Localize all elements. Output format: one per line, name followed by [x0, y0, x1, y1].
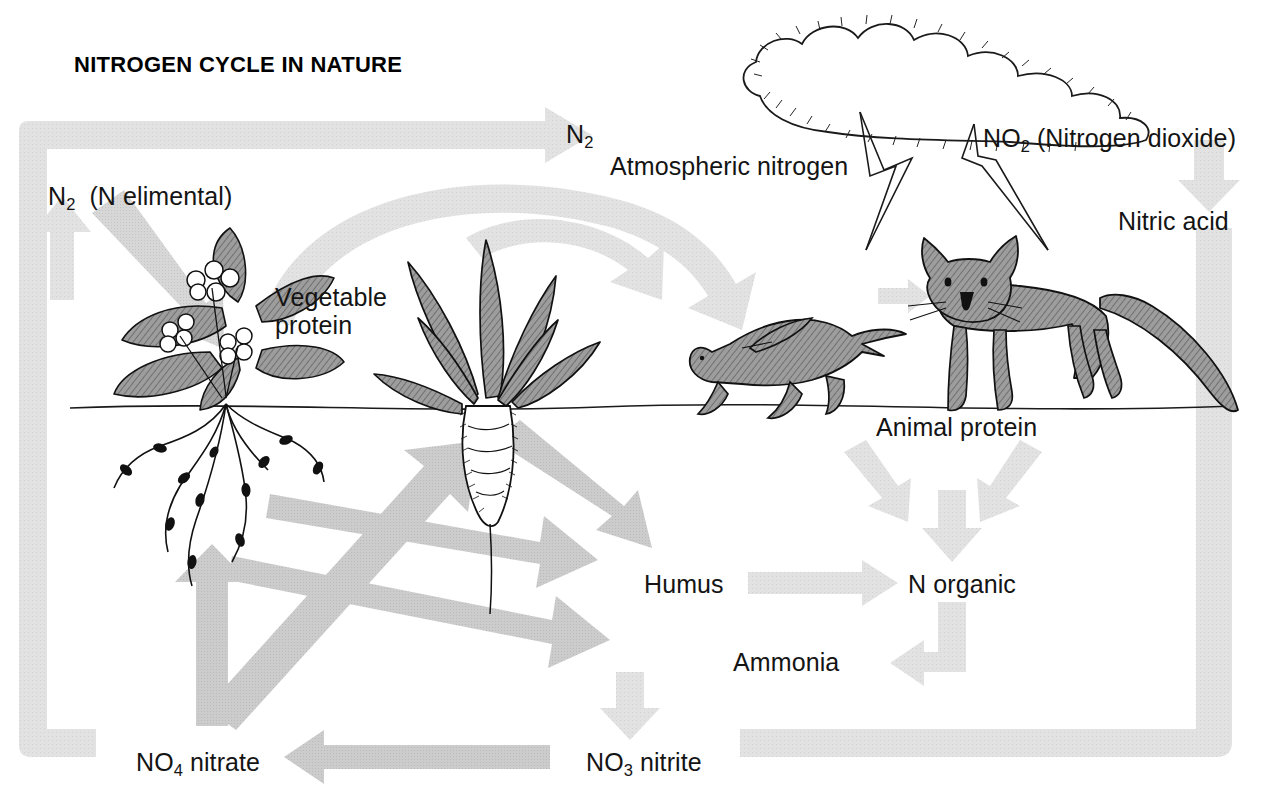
no4-name: nitrate	[190, 748, 260, 776]
flow-n2-elemental-to-atmosphere	[19, 107, 592, 185]
no3-subscript: 3	[624, 761, 633, 779]
flow-soil-to-n2-elemental	[19, 185, 96, 757]
label-no3-nitrite: NO3 nitrite	[586, 748, 702, 779]
flow-ammonia-to-nitrite	[600, 672, 660, 740]
label-vegetable-protein: Vegetable protein	[275, 283, 387, 339]
label-humus: Humus	[644, 570, 724, 598]
n2-subscript: 2	[584, 133, 593, 151]
flow-nitrite-to-nitrate	[284, 730, 550, 784]
label-no4-nitrate: NO4 nitrate	[136, 748, 260, 779]
flow-n-organic-to-ammonia	[890, 602, 966, 686]
no3-name: nitrite	[640, 748, 702, 776]
flow-animals-to-n-organic	[844, 440, 1042, 562]
label-n2-atmospheric: N2	[566, 120, 593, 151]
label-n-organic: N organic	[908, 570, 1016, 598]
flow-prey-to-predator	[878, 279, 930, 313]
label-nitric-acid: Nitric acid	[1118, 207, 1229, 235]
label-ammonia: Ammonia	[733, 648, 839, 676]
label-n2-elemental: N2 (N elimental)	[48, 182, 232, 213]
vegetable-protein-line-2: protein	[275, 311, 387, 339]
label-atmospheric-nitrogen: Atmospheric nitrogen	[610, 152, 848, 180]
no3-symbol: NO	[586, 748, 624, 776]
fox	[908, 236, 1238, 411]
nitrogen-cycle-diagram: NITROGEN CYCLE IN NATURE	[0, 0, 1271, 803]
no2-subscript: 2	[1021, 137, 1030, 155]
hare	[690, 318, 906, 418]
no2-name: (Nitrogen dioxide)	[1037, 124, 1236, 152]
diagram-artwork	[0, 0, 1271, 803]
n2-elemental-symbol: N	[48, 182, 66, 210]
n2-symbol: N	[566, 120, 584, 148]
n2-elemental-subscript: 2	[66, 195, 75, 213]
no4-symbol: NO	[136, 748, 174, 776]
ground-line	[70, 405, 1236, 409]
no4-subscript: 4	[174, 761, 183, 779]
no2-symbol: NO	[983, 124, 1021, 152]
vegetable-protein-line-1: Vegetable	[275, 283, 387, 311]
label-animal-protein: Animal protein	[876, 413, 1037, 441]
flow-humus-to-n-organic	[748, 560, 898, 606]
label-no2-nitrogen-dioxide: NO2 (Nitrogen dioxide)	[983, 124, 1236, 155]
n2-elemental-name: (N elimental)	[89, 182, 232, 210]
